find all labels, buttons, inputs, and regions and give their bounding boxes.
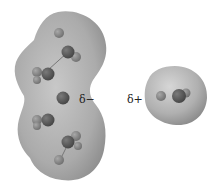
diagram-canvas (0, 0, 220, 188)
partial-negative-charge-label: δ− (79, 94, 95, 105)
right-molecule (145, 66, 207, 125)
partial-positive-charge-label: δ+ (127, 94, 143, 105)
